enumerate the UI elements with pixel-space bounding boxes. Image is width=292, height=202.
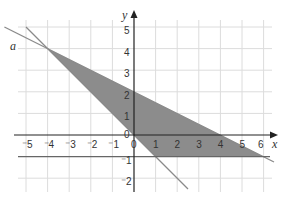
x-tick-label: ⁻1 xyxy=(108,139,119,150)
x-tick-label: 5 xyxy=(239,139,245,150)
x-tick-label: 3 xyxy=(196,139,202,150)
x-tick-label: 1 xyxy=(153,139,159,150)
y-tick-label: 5 xyxy=(124,25,130,36)
inequality-graph: x y a ⁻5 ⁻4 ⁻3 ⁻2 ⁻1 1 2 3 4 5 6 0 0 5 4… xyxy=(0,0,292,202)
x-axis-label: x xyxy=(271,137,278,151)
x-tick-label: 4 xyxy=(218,139,224,150)
x-tick-label: 6 xyxy=(258,139,264,150)
y-tick-label: ⁻1 xyxy=(121,155,132,166)
x-tick-label: ⁻2 xyxy=(87,139,98,150)
y-tick-label: 2 xyxy=(124,90,130,101)
origin-x-label: 0 xyxy=(131,139,137,150)
line-a-label: a xyxy=(10,39,16,53)
y-tick-label: 3 xyxy=(124,68,130,79)
origin-y-label: 0 xyxy=(124,129,130,140)
y-axis-label: y xyxy=(121,8,128,22)
x-tick-label: ⁻4 xyxy=(44,139,55,150)
y-tick-label: ⁻2 xyxy=(121,176,132,187)
x-tick-label: ⁻5 xyxy=(22,139,33,150)
x-tick-label: ⁻3 xyxy=(65,139,76,150)
y-tick-label: 1 xyxy=(124,111,130,122)
x-tick-label: 2 xyxy=(175,139,181,150)
y-tick-label: 4 xyxy=(124,47,130,58)
y-axis-arrow-icon xyxy=(131,10,138,18)
